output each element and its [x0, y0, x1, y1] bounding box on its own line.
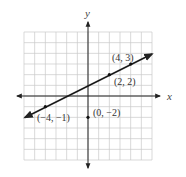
point-neg4-neg1	[44, 105, 47, 108]
y-axis-label: y	[84, 7, 90, 19]
label-0-neg2: (0, −2)	[93, 107, 120, 119]
label-2-2: (2, 2)	[114, 76, 136, 88]
label-4-3: (4, 3)	[112, 52, 134, 64]
point-0-neg2	[86, 116, 89, 119]
label-neg4-neg1: (−4, −1)	[37, 112, 70, 124]
point-2-2	[108, 73, 111, 76]
coordinate-plane: x y (4, 3) (2, 2) (−4, −1) (0, −2)	[0, 0, 186, 177]
x-axis-label: x	[166, 90, 172, 102]
